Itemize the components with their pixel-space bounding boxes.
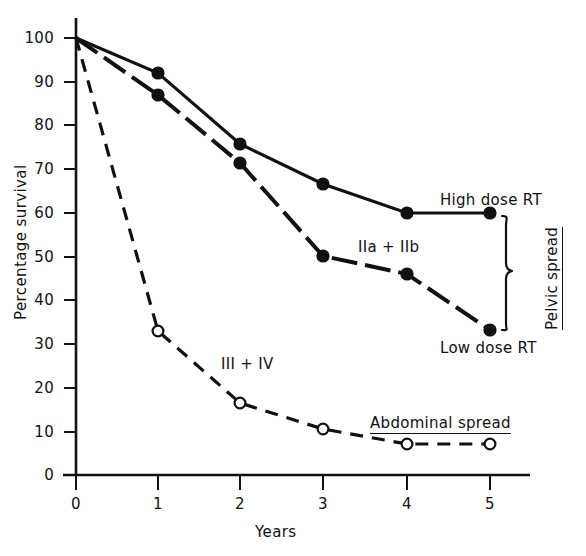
data-point-open (318, 424, 329, 435)
axis-lines (63, 18, 530, 476)
x-tick-label-3: 3 (313, 495, 333, 513)
data-point-filled (151, 66, 164, 79)
data-point-filled (316, 249, 329, 262)
data-point-filled (233, 137, 246, 150)
data-point-filled (400, 267, 413, 280)
survival-curve-figure: 100 90 80 70 60 50 40 30 20 10 0 0 1 2 3… (0, 0, 586, 556)
x-tick-label-4: 4 (397, 495, 417, 513)
y-axis-title: Percentage survival (12, 164, 30, 320)
label-high-dose-rt: High dose RT (440, 191, 542, 209)
data-point-filled (151, 88, 164, 101)
x-axis-ticks (76, 475, 490, 490)
x-tick-label-2: 2 (230, 495, 250, 513)
data-point-open (153, 326, 164, 337)
x-tick-label-5: 5 (480, 495, 500, 513)
data-point-filled (316, 177, 329, 190)
label-stage-iia-iib: IIa + IIb (358, 238, 419, 256)
data-point-filled (400, 206, 413, 219)
y-tick-label-0: 0 (20, 466, 54, 484)
chart-plot-area (0, 0, 586, 556)
label-low-dose-rt: Low dose RT (440, 339, 537, 357)
pelvic-spread-brace (502, 216, 512, 330)
y-tick-label-30: 30 (20, 335, 54, 353)
label-abdominal-spread: Abdominal spread (370, 414, 511, 434)
data-point-filled (483, 323, 496, 336)
x-tick-label-1: 1 (148, 495, 168, 513)
x-axis-title: Years (255, 523, 297, 541)
label-stage-iii-iv: III + IV (221, 355, 273, 373)
x-tick-label-0: 0 (66, 495, 86, 513)
data-point-filled (233, 156, 246, 169)
y-tick-label-10: 10 (20, 423, 54, 441)
series-high-dose-rt (76, 38, 497, 220)
y-tick-label-100: 100 (20, 29, 54, 47)
series-abdominal-spread (76, 38, 495, 449)
y-tick-label-20: 20 (20, 379, 54, 397)
label-pelvic-spread: Pelvic spread (543, 227, 563, 330)
y-tick-label-90: 90 (20, 73, 54, 91)
data-point-open (485, 439, 496, 450)
data-point-open (402, 439, 413, 450)
series-low-dose-rt (76, 38, 497, 337)
y-tick-label-80: 80 (20, 116, 54, 134)
data-point-open (235, 398, 246, 409)
y-axis-ticks (64, 38, 76, 432)
